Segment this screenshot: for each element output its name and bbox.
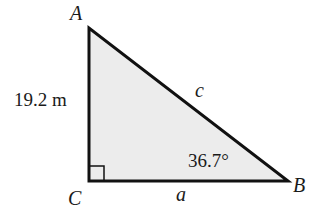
- angle-label-b: 36.7°: [188, 150, 229, 171]
- vertex-label-c: C: [68, 187, 82, 209]
- vertex-label-a: A: [68, 2, 83, 24]
- side-label-a: a: [176, 183, 186, 205]
- side-label-c: c: [195, 79, 204, 101]
- vertex-label-b: B: [293, 174, 305, 196]
- side-label-ac: 19.2 m: [14, 89, 67, 110]
- triangle-diagram: A C B 19.2 m a c 36.7°: [0, 0, 327, 221]
